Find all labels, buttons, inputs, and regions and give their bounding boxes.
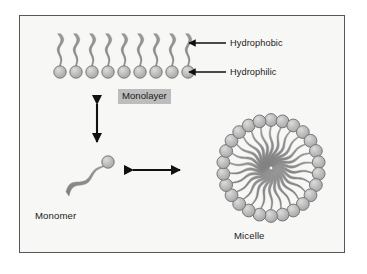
micelle-structure: [217, 114, 325, 223]
micelle-label: Micelle: [234, 231, 265, 241]
hydrophilic-label: Hydrophilic: [230, 68, 277, 77]
figure-canvas: Hydrophobic Hydrophilic Monolayer Monome…: [0, 0, 367, 274]
monolayer-label: Monolayer: [118, 89, 171, 104]
monolayer-structure: [54, 34, 194, 78]
monomer-label: Monomer: [35, 211, 76, 221]
monomer-structure: [66, 156, 114, 196]
hydrophobic-label: Hydrophobic: [230, 39, 283, 48]
diagram-svg: [0, 0, 367, 274]
